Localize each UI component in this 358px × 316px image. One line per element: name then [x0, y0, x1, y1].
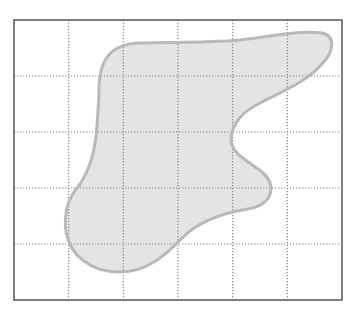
grid-diagram: [0, 0, 358, 316]
